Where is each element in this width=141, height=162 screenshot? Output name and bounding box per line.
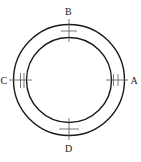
- label-d: D: [65, 143, 72, 154]
- label-b: B: [65, 6, 72, 17]
- label-c: C: [1, 75, 8, 86]
- inner-circle: [27, 38, 112, 123]
- marker-c: [9, 73, 32, 88]
- label-a: A: [131, 75, 139, 86]
- concentric-circles-diagram: A B C D: [0, 0, 141, 162]
